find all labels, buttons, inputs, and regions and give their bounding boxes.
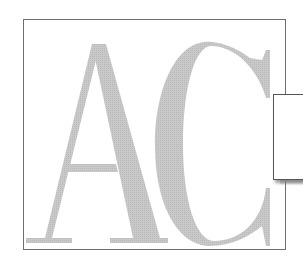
monogram-artwork xyxy=(0,0,303,268)
frame-border xyxy=(24,20,286,250)
tab-shadow xyxy=(280,180,303,185)
overlapping-tab-box xyxy=(273,94,303,180)
monogram-svg xyxy=(0,0,303,268)
